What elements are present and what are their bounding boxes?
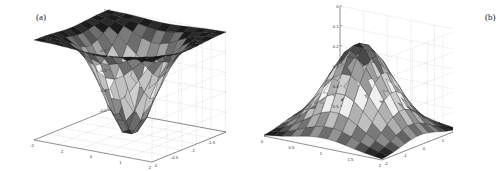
panel-b-label: (b) [485, 12, 496, 22]
svg-text:-0.3: -0.3 [99, 68, 107, 73]
svg-text:-0.4: -0.4 [99, 88, 107, 93]
svg-text:1.5: 1.5 [348, 157, 354, 162]
svg-text:0.5: 0.5 [333, 104, 339, 109]
svg-text:0: 0 [261, 139, 264, 144]
svg-text:2: 2 [379, 163, 382, 168]
svg-text:-1: -1 [60, 149, 64, 154]
svg-text:0: 0 [336, 4, 339, 9]
svg-text:0.3: 0.3 [333, 64, 339, 69]
svg-text:0: 0 [423, 146, 426, 151]
svg-text:1: 1 [320, 151, 323, 156]
svg-text:-0.5: -0.5 [171, 155, 179, 160]
panel-b: (b) 00.10.20.30.40.500.511.52-2-1012 [226, 0, 453, 171]
svg-text:-1.5: -1.5 [208, 140, 216, 145]
svg-text:0.1: 0.1 [333, 24, 339, 29]
svg-text:-2: -2 [384, 161, 388, 166]
svg-text:-0.1: -0.1 [99, 28, 107, 33]
svg-text:-1: -1 [191, 148, 195, 153]
svg-text:1: 1 [442, 138, 445, 143]
svg-text:-2: -2 [30, 143, 34, 148]
svg-text:-1: -1 [403, 153, 407, 158]
svg-text:0: 0 [155, 163, 158, 168]
svg-text:-0.5: -0.5 [99, 108, 107, 113]
panel-a-plot: 0-0.1-0.2-0.3-0.4-0.5-2-10120-0.5-1-1.5-… [0, 0, 226, 171]
svg-text:0: 0 [90, 154, 93, 159]
svg-text:1: 1 [119, 160, 122, 165]
svg-text:0.2: 0.2 [333, 44, 339, 49]
svg-text:2: 2 [149, 165, 152, 170]
svg-text:-0.2: -0.2 [99, 48, 107, 53]
svg-text:0.5: 0.5 [289, 145, 295, 150]
panel-b-plot: 00.10.20.30.40.500.511.52-2-1012 [226, 0, 453, 171]
svg-text:0.4: 0.4 [333, 84, 339, 89]
panel-a: (a) 0-0.1-0.2-0.3-0.4-0.5-2-10120-0.5-1-… [0, 0, 226, 171]
